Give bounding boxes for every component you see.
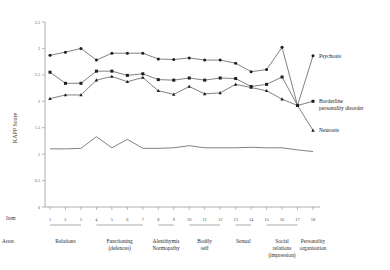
y-tick-label: 3: [38, 46, 40, 51]
item-row-header: Item: [6, 215, 16, 221]
data-point-marker: [64, 82, 67, 85]
y-tick-label: 1.5: [35, 125, 40, 130]
data-point-marker: [188, 77, 191, 80]
data-point-marker: [203, 59, 206, 62]
area-group-label: Functioning: [107, 238, 133, 244]
data-point-marker: [49, 54, 52, 57]
data-point-marker: [280, 97, 283, 100]
x-tick-label: 15: [264, 217, 269, 222]
data-point-marker: [312, 100, 315, 103]
data-point-marker: [265, 68, 268, 71]
areas-row-header: Areas: [2, 238, 14, 244]
series-psychosis: [49, 46, 315, 107]
data-point-marker: [79, 47, 82, 50]
data-point-marker: [250, 70, 253, 73]
area-group-label: (defences): [108, 245, 131, 252]
series-polyline: [50, 76, 313, 130]
data-point-marker: [95, 70, 98, 73]
data-point-marker: [312, 54, 315, 57]
area-group-label: Personality: [301, 238, 326, 244]
area-group-labels: RelationsFunctioning(defences)Alexithymi…: [50, 225, 327, 259]
y-axis-title: KAPP Score: [12, 113, 18, 144]
area-group-label: self: [201, 245, 209, 251]
data-point-marker: [110, 75, 113, 78]
series-annotation-label: personality disorder: [319, 105, 364, 111]
area-group-label: Social: [275, 238, 289, 244]
area-group-label: Bodily: [197, 238, 212, 244]
data-point-marker: [95, 59, 98, 62]
area-group-label: Normopathy: [152, 245, 180, 251]
series-annotation-label: Borderline: [319, 98, 343, 104]
kapp-score-chart: 00.511.522.533.5 KAPP Score 123456789101…: [0, 0, 390, 270]
series-borderline-personality-disorder: [49, 70, 315, 107]
x-tick-label: 6: [126, 217, 129, 222]
area-group-label: (impression): [268, 252, 295, 259]
x-tick-label: 3: [80, 217, 83, 222]
data-point-marker: [281, 75, 284, 78]
data-point-marker: [49, 71, 52, 74]
x-tick-label: 8: [157, 217, 160, 222]
y-tick-label: 0.5: [35, 178, 40, 183]
x-tick-label: 16: [280, 217, 285, 222]
area-group-label: Alexithymia: [153, 238, 181, 244]
series-neurosis-baseline: [50, 137, 313, 152]
x-tick-label: 9: [173, 217, 176, 222]
x-tick-label: 14: [249, 217, 254, 222]
y-axis-ticks: 00.511.522.533.5: [35, 20, 45, 210]
y-tick-label: 0: [38, 205, 40, 210]
chart-legend: PsychosisBorderlinepersonality disorderN…: [319, 53, 364, 134]
x-tick-label: 17: [295, 217, 300, 222]
data-point-marker: [281, 46, 284, 49]
data-point-marker: [219, 59, 222, 62]
x-tick-label: 4: [95, 217, 98, 222]
x-tick-label: 5: [111, 217, 114, 222]
data-point-marker: [172, 58, 175, 61]
data-point-marker: [79, 82, 82, 85]
y-tick-label: 3.5: [35, 20, 40, 25]
x-tick-label: 1: [49, 217, 51, 222]
data-point-marker: [141, 52, 144, 55]
area-group-label: Sexual: [236, 238, 251, 244]
y-tick-label: 1: [38, 152, 40, 157]
x-tick-label: 7: [142, 217, 145, 222]
area-group-label: organisation: [300, 245, 327, 251]
data-point-marker: [234, 83, 237, 86]
y-tick-label: 2.5: [35, 72, 40, 77]
series-annotation-label: Neurosis: [319, 127, 339, 133]
x-tick-label: 2: [64, 217, 66, 222]
data-point-marker: [265, 83, 268, 86]
x-tick-label: 13: [233, 217, 238, 222]
series-layer: [48, 46, 314, 152]
data-point-marker: [234, 62, 237, 65]
series-neurosis: [48, 75, 314, 132]
data-point-marker: [141, 76, 144, 79]
data-point-marker: [219, 77, 222, 80]
area-group-label: Relations: [55, 238, 75, 244]
data-point-marker: [64, 51, 67, 54]
data-point-marker: [172, 79, 175, 82]
y-tick-label: 2: [38, 99, 40, 104]
data-point-marker: [188, 56, 191, 59]
data-point-marker: [203, 79, 206, 82]
x-tick-label: 12: [218, 217, 222, 222]
chart-canvas: 00.511.522.533.5 KAPP Score 123456789101…: [0, 0, 390, 270]
data-point-marker: [234, 77, 237, 80]
series-annotation-label: Psychosis: [319, 53, 341, 59]
area-group-label: relations: [273, 245, 292, 251]
data-point-marker: [110, 70, 113, 73]
data-point-marker: [157, 58, 160, 61]
series-polyline: [50, 137, 313, 152]
data-point-marker: [110, 52, 113, 55]
data-point-marker: [188, 85, 191, 88]
data-point-marker: [141, 72, 144, 75]
x-tick-label: 18: [311, 217, 316, 222]
x-axis-ticks: 123456789101112131415161718: [49, 207, 316, 222]
series-polyline: [50, 71, 313, 105]
x-tick-label: 11: [203, 217, 207, 222]
x-tick-label: 10: [187, 217, 192, 222]
data-point-marker: [157, 78, 160, 81]
data-point-marker: [126, 74, 129, 77]
data-point-marker: [126, 52, 129, 55]
